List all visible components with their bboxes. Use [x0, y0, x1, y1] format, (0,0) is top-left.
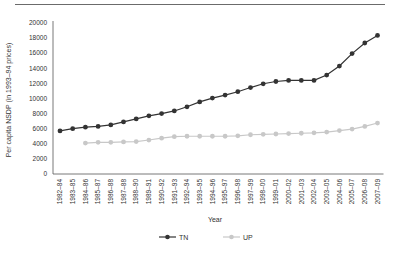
data-point	[286, 131, 291, 136]
y-tick-label: 16000	[29, 49, 47, 56]
x-tick-label: 1991–93	[171, 179, 178, 205]
data-point	[312, 78, 317, 83]
data-point	[299, 131, 304, 136]
data-point	[350, 127, 355, 132]
x-tick-label: 1993–95	[196, 179, 203, 205]
y-tick-label: 20000	[29, 19, 47, 26]
chart-series	[58, 33, 380, 145]
y-tick-label: 4000	[33, 140, 48, 147]
data-point	[172, 109, 177, 114]
data-point	[337, 128, 342, 133]
data-point	[147, 138, 152, 143]
x-tick-label: 1986–88	[107, 179, 114, 205]
x-tick-label: 2001–03	[298, 179, 305, 205]
data-point	[121, 140, 126, 145]
legend-label-tn: TN	[179, 234, 188, 241]
x-tick-label: 1988–90	[132, 179, 139, 205]
data-point	[248, 85, 253, 90]
x-tick-label: 1982–84	[56, 179, 63, 205]
data-point	[324, 73, 329, 78]
data-point	[83, 141, 88, 146]
y-axis: 0200040006000800010000120001400016000180…	[29, 19, 53, 177]
data-point	[159, 111, 164, 116]
data-point	[362, 41, 367, 46]
x-tick-label: 1998–00	[259, 179, 266, 205]
data-point	[337, 64, 342, 69]
x-axis-title: Year	[208, 216, 223, 223]
data-point	[134, 139, 139, 144]
y-tick-label: 6000	[33, 125, 48, 132]
x-tick-label: 1992–94	[183, 179, 190, 205]
data-point	[83, 125, 88, 130]
data-point	[261, 132, 266, 137]
data-point	[223, 93, 228, 98]
data-point	[108, 140, 113, 145]
data-point	[134, 116, 139, 121]
data-point	[274, 79, 279, 84]
x-axis: 1982–841983–851984–861985–871986–881987–…	[53, 174, 384, 204]
data-point	[299, 78, 304, 83]
data-point	[108, 123, 113, 128]
data-point	[185, 104, 190, 109]
data-point	[70, 126, 75, 131]
x-tick-label: 1983–85	[69, 179, 76, 205]
data-point	[312, 130, 317, 135]
data-point	[172, 134, 177, 139]
x-tick-label: 1990–92	[158, 179, 165, 205]
legend-item-tn: TN	[159, 234, 188, 241]
x-tick-label: 1999–01	[272, 179, 279, 205]
y-tick-label: 2000	[33, 155, 48, 162]
x-tick-label: 2005–07	[348, 179, 355, 205]
x-tick-label: 1996–98	[234, 179, 241, 205]
x-tick-label: 2007–09	[374, 179, 381, 205]
y-tick-label: 8000	[33, 110, 48, 117]
data-point	[210, 96, 215, 101]
y-tick-label: 0	[43, 170, 47, 177]
x-tick-label: 2000–02	[285, 179, 292, 205]
x-tick-label: 1987–88	[120, 179, 127, 205]
series-up	[83, 121, 380, 146]
data-point	[223, 134, 228, 139]
line-chart: 0200040006000800010000120001400016000180…	[0, 0, 395, 253]
series-tn	[58, 33, 380, 133]
data-point	[286, 78, 291, 83]
legend-label-up: UP	[243, 234, 253, 241]
data-point	[197, 134, 202, 139]
x-tick-label: 1997–99	[247, 179, 254, 205]
x-tick-label: 2006–08	[361, 179, 368, 205]
data-point	[197, 99, 202, 104]
y-tick-label: 12000	[29, 80, 47, 87]
data-point	[350, 51, 355, 56]
data-point	[210, 134, 215, 139]
data-point	[274, 132, 279, 137]
data-point	[248, 132, 253, 137]
x-tick-label: 1994–96	[209, 179, 216, 205]
data-point	[121, 120, 126, 125]
data-point	[324, 130, 329, 135]
y-tick-label: 10000	[29, 95, 47, 102]
y-tick-label: 14000	[29, 65, 47, 72]
data-point	[362, 124, 367, 129]
x-tick-label: 1984–86	[82, 179, 89, 205]
x-tick-label: 2002–04	[310, 179, 317, 205]
legend: TN UP	[159, 234, 253, 241]
legend-marker-up	[229, 235, 234, 240]
x-tick-label: 2004–06	[336, 179, 343, 205]
data-point	[375, 33, 380, 38]
data-point	[159, 136, 164, 141]
data-point	[147, 113, 152, 118]
data-point	[375, 121, 380, 126]
x-tick-label: 1995–97	[221, 179, 228, 205]
x-tick-label: 1985–87	[94, 179, 101, 205]
data-point	[261, 81, 266, 86]
x-tick-label: 1989–91	[145, 179, 152, 205]
y-axis-title: Per capita NSDP (in 1993–94 prices)	[5, 43, 13, 158]
legend-marker-tn	[165, 235, 170, 240]
data-point	[58, 129, 63, 134]
data-point	[235, 89, 240, 94]
data-point	[235, 133, 240, 138]
y-tick-label: 18000	[29, 34, 47, 41]
data-point	[96, 124, 101, 129]
data-point	[96, 140, 101, 145]
data-point	[185, 134, 190, 139]
